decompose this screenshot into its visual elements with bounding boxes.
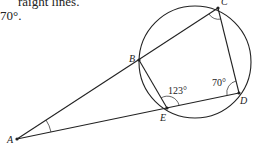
angle-label-D: 70° bbox=[212, 77, 226, 88]
angle-label-E: 123° bbox=[168, 85, 187, 96]
label-C: C bbox=[221, 0, 228, 7]
line-AC bbox=[17, 8, 218, 139]
angle-arc-D bbox=[227, 81, 236, 95]
label-B: B bbox=[129, 53, 135, 64]
angle-arc-A bbox=[46, 120, 51, 132]
label-D: D bbox=[239, 95, 248, 106]
label-E: E bbox=[159, 112, 166, 123]
point-A bbox=[15, 137, 18, 140]
point-B bbox=[137, 58, 140, 61]
geometry-diagram: A B C D E 123° 70° bbox=[0, 0, 253, 145]
point-E bbox=[165, 106, 168, 109]
angle-arc-E bbox=[161, 96, 179, 105]
label-A: A bbox=[6, 134, 14, 145]
point-C bbox=[216, 6, 219, 9]
line-AD bbox=[17, 93, 239, 139]
